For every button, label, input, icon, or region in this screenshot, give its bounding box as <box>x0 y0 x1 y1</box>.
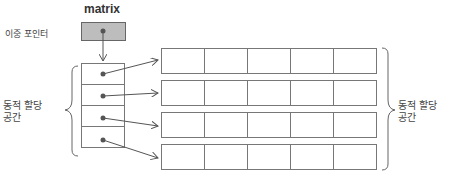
connector-overlay <box>0 0 456 184</box>
matrix-pointer-arrow <box>101 29 106 62</box>
left-brace-icon <box>65 66 78 156</box>
right-brace-icon <box>382 48 395 170</box>
pointer-array-arrows <box>101 60 159 158</box>
